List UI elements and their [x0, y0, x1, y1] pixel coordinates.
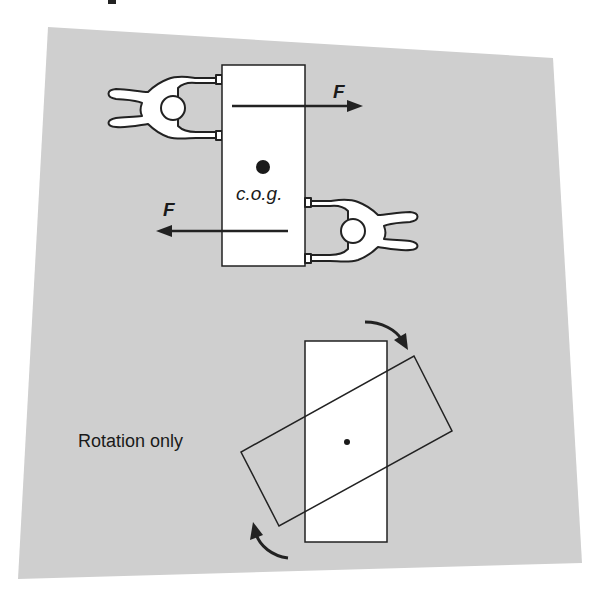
force-label-upper: F [333, 81, 346, 102]
cog-dot [256, 160, 270, 174]
person-right-head [341, 219, 365, 243]
person-left-head [161, 96, 185, 120]
force-label-lower: F [163, 199, 176, 220]
rotation-diagram: F c.o.g. F Rotatio [0, 0, 615, 598]
top-mark [108, 0, 116, 4]
cog-label: c.o.g. [236, 183, 282, 204]
rotation-center-dot [344, 439, 350, 445]
rotation-only-label: Rotation only [78, 431, 183, 451]
